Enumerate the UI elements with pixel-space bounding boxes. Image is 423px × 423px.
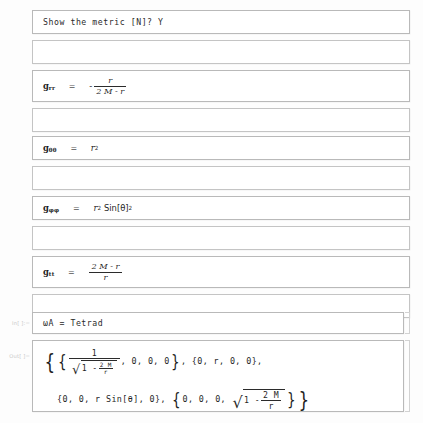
numerator: 1 bbox=[90, 349, 99, 358]
output-line-1: { { 1 √ 1 - 2 M bbox=[43, 349, 403, 375]
separator-comma: , bbox=[181, 357, 192, 366]
cell-metric-grr[interactable]: grr = - r 2 M - r bbox=[32, 70, 410, 102]
fraction: r 2 M - r bbox=[94, 76, 126, 95]
sqrt-leading: 1 - bbox=[82, 364, 98, 373]
cell-content: gtt = 2 M - r r bbox=[33, 257, 409, 287]
rhs-gthetatheta: r2 bbox=[91, 143, 99, 153]
denominator: 2 M - r bbox=[94, 87, 126, 96]
denominator: r bbox=[102, 273, 110, 282]
numerator: 2 M - r bbox=[89, 262, 121, 271]
cell-input-tetrad[interactable]: ωA = Tetrad bbox=[32, 312, 404, 334]
rhs-grr: - r 2 M - r bbox=[89, 76, 127, 95]
cell-spacer-1[interactable] bbox=[32, 40, 410, 64]
inner-open-brace-2: { bbox=[172, 395, 181, 405]
equation-grr: grr = - r 2 M - r bbox=[43, 76, 127, 95]
cell-content: gθθ = r2 bbox=[33, 137, 409, 159]
output-expression: { { 1 √ 1 - 2 M bbox=[43, 349, 403, 410]
inner-fraction: 2 M r bbox=[99, 362, 113, 376]
equals-sign: = bbox=[59, 204, 93, 213]
rhs-gphiphi: r2Sin[θ]2 bbox=[93, 203, 132, 213]
inner-fraction: 2 M r bbox=[261, 391, 281, 410]
radicand: 1 - 2 M r bbox=[243, 389, 285, 410]
outer-close-brace: } bbox=[299, 394, 310, 407]
fraction-1: 1 √ 1 - 2 M r bbox=[69, 349, 120, 375]
equals-sign: = bbox=[57, 144, 91, 153]
cell-spacer-4[interactable] bbox=[32, 226, 410, 250]
equation-gthetatheta: gθθ = r2 bbox=[43, 143, 98, 153]
vector-4-head: 0, 0, 0, bbox=[183, 395, 232, 404]
inner-close-brace-2: } bbox=[287, 395, 296, 405]
exponent: 2 bbox=[95, 145, 99, 151]
cell-spacer-2[interactable] bbox=[32, 108, 410, 132]
cell-metric-gthetatheta[interactable]: gθθ = r2 bbox=[32, 136, 410, 160]
inner-close-brace-1: } bbox=[171, 357, 180, 367]
cell-content: grr = - r 2 M - r bbox=[33, 71, 409, 101]
minus-sign: - bbox=[89, 81, 92, 91]
cell-content: gφφ = r2Sin[θ]2 bbox=[33, 197, 409, 219]
metric-symbol: gtt bbox=[43, 267, 54, 277]
cell-output-tetrad[interactable]: { { 1 √ 1 - 2 M bbox=[32, 340, 404, 412]
inner-open-brace-1: { bbox=[58, 357, 67, 367]
cell-content: Show the metric [N]? Y bbox=[33, 11, 409, 33]
input-expression-text: ωA = Tetrad bbox=[43, 318, 103, 328]
denominator: r bbox=[103, 369, 109, 375]
cell-metric-gphiphi[interactable]: gφφ = r2Sin[θ]2 bbox=[32, 196, 410, 220]
denominator: √ 1 - 2 M r bbox=[69, 359, 120, 375]
input-cell-label: In[ ]:= bbox=[4, 320, 30, 326]
equals-sign: = bbox=[54, 268, 88, 277]
radical-sign: √ bbox=[72, 361, 81, 377]
equals-sign: = bbox=[55, 82, 89, 91]
numerator: 2 M bbox=[261, 391, 281, 400]
radical-sign: √ bbox=[233, 390, 244, 411]
metric-symbol: grr bbox=[43, 81, 55, 91]
denominator: r bbox=[266, 401, 275, 410]
vector-2: {0, r, 0, 0}, bbox=[192, 357, 263, 366]
notebook-sheet: Show the metric [N]? Y grr = - r 2 M - r bbox=[0, 0, 423, 423]
input-cell-bracket[interactable] bbox=[405, 312, 410, 334]
output-cell-label: Out[ ]= bbox=[4, 353, 30, 359]
sqrt-2: √ 1 - 2 M r bbox=[233, 389, 286, 410]
vector-1-tail: , 0, 0, 0 bbox=[121, 357, 170, 366]
prompt-text: Show the metric [N]? Y bbox=[43, 17, 164, 27]
cell-content: { { 1 √ 1 - 2 M bbox=[33, 341, 403, 419]
vector-3: {0, 0, r Sin[θ], 0}, bbox=[57, 395, 171, 404]
trig-function: Sin[θ] bbox=[104, 203, 129, 213]
sqrt-1: √ 1 - 2 M r bbox=[72, 360, 117, 376]
cell-prompt-show-metric[interactable]: Show the metric [N]? Y bbox=[32, 10, 410, 34]
metric-symbol: gφφ bbox=[43, 203, 59, 213]
sqrt-leading: 1 - bbox=[244, 396, 260, 405]
numerator: r bbox=[106, 76, 114, 85]
equation-gtt: gtt = 2 M - r r bbox=[43, 262, 123, 281]
cell-content: ωA = Tetrad bbox=[33, 313, 403, 333]
metric-symbol: gθθ bbox=[43, 143, 57, 153]
output-cell-bracket[interactable] bbox=[405, 340, 410, 412]
radicand: 1 - 2 M r bbox=[81, 360, 117, 376]
trig-exponent: 2 bbox=[129, 205, 133, 211]
exponent: 2 bbox=[97, 205, 101, 211]
rhs-gtt: 2 M - r r bbox=[88, 262, 122, 281]
equation-gphiphi: gφφ = r2Sin[θ]2 bbox=[43, 203, 132, 213]
outer-open-brace: { bbox=[44, 356, 55, 369]
cell-metric-gtt[interactable]: gtt = 2 M - r r bbox=[32, 256, 410, 288]
cell-spacer-3[interactable] bbox=[32, 166, 410, 190]
fraction: 2 M - r r bbox=[89, 262, 121, 281]
output-line-2: {0, 0, r Sin[θ], 0}, { 0, 0, 0, √ 1 - 2 … bbox=[57, 389, 403, 410]
